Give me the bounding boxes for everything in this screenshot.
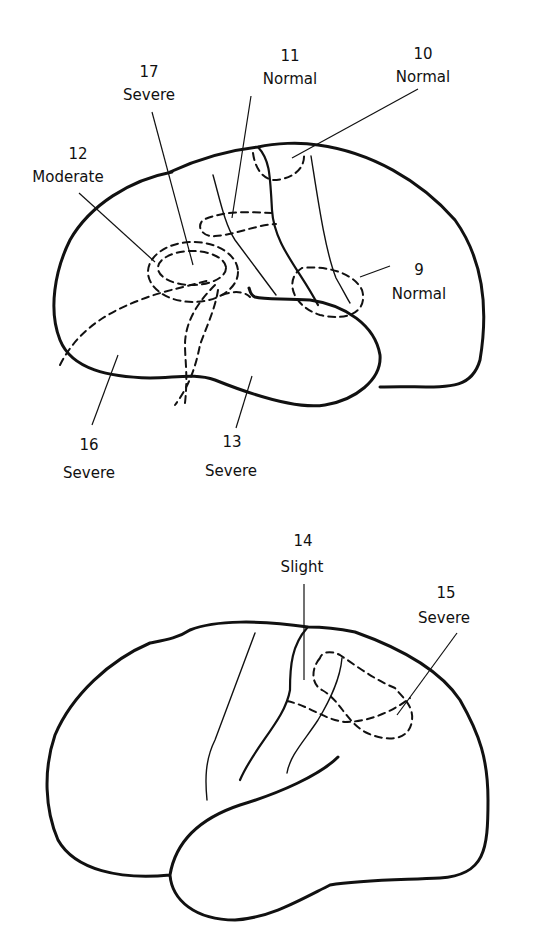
label-10-severity: Normal	[396, 68, 450, 86]
region-15-outline	[313, 652, 412, 738]
leader-17	[152, 112, 193, 265]
postcentral-sulcus	[311, 156, 350, 303]
lower-brain-outline	[47, 622, 488, 920]
region-9-outline	[292, 267, 363, 317]
brain-diagram: 17 Severe 11 Normal 10 Normal 12 Moderat…	[0, 0, 535, 941]
label-11-number: 11	[280, 47, 299, 65]
leader-16	[92, 355, 118, 425]
label-12-severity: Moderate	[32, 168, 103, 186]
label-16-severity: Severe	[63, 464, 115, 482]
region-12-extension	[222, 292, 250, 297]
precentral-sulcus	[213, 175, 276, 295]
label-9-number: 9	[414, 261, 424, 279]
region-16-boundary	[60, 280, 210, 365]
leader-11	[232, 96, 251, 218]
upper-brain: 17 Severe 11 Normal 10 Normal 12 Moderat…	[32, 45, 484, 482]
precentral-sulcus-lower	[206, 633, 255, 800]
label-13-number: 13	[222, 433, 241, 451]
label-11-severity: Normal	[263, 70, 317, 88]
lower-brain: 14 Slight 15 Severe	[47, 532, 488, 920]
region-10-outline	[253, 153, 304, 180]
leader-10	[292, 89, 418, 158]
leader-12	[79, 193, 155, 262]
label-15-severity: Severe	[418, 609, 470, 627]
label-14-number: 14	[293, 532, 312, 550]
label-14-severity: Slight	[281, 558, 324, 576]
label-12-number: 12	[68, 145, 87, 163]
label-10-number: 10	[413, 45, 432, 63]
label-9-severity: Normal	[392, 285, 446, 303]
label-15-number: 15	[436, 584, 455, 602]
leader-15	[397, 633, 457, 715]
central-sulcus-lower	[240, 628, 307, 780]
central-sulcus	[258, 147, 318, 305]
leader-9	[360, 266, 390, 277]
postcentral-sulcus-lower	[287, 658, 342, 773]
label-13-severity: Severe	[205, 462, 257, 480]
label-17-severity: Severe	[123, 86, 175, 104]
label-16-number: 16	[79, 436, 98, 454]
leader-13	[236, 376, 252, 428]
region-11-outline	[200, 212, 276, 236]
region-17-outline	[158, 251, 226, 285]
label-17-number: 17	[139, 63, 158, 81]
